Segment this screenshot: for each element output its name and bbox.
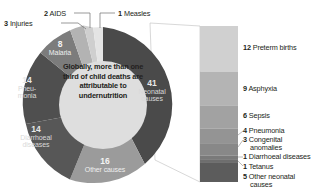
callout-value-measles: 1 [118,9,122,18]
legend-item-tetanus[interactable]: 1 Tetanus [243,163,273,171]
centre-message: Globally, more than one third of child d… [60,62,146,101]
breakdown-legend: 12 Preterm births 9 Asphyxia 6 Sepsis 4 … [243,0,329,193]
infographic-canvas: 41 Neonatal causes 16 Other causes 14 Di… [0,0,329,193]
legend-item-diarrhoeal-diseases[interactable]: 1 Diarrhoeal diseases [243,153,310,161]
legend-value-preterm-births: 12 [243,43,251,52]
legend-label-pneumonia: Pneumonia [249,126,285,135]
legend-value-other-neonatal-causes: 5 [243,172,247,181]
legend-item-asphyxia[interactable]: 9 Asphyxia [243,85,277,93]
neonatal-breakdown-bar [200,26,238,182]
legend-value-pneumonia: 4 [243,126,247,135]
legend-value-tetanus: 1 [243,162,247,171]
legend-label-other-neonatal-causes-2: causes [243,181,295,189]
bar-segment-preterm-births[interactable] [200,26,238,72]
legend-label-preterm-births: Preterm births [253,43,297,52]
callout-value-aids: 2 [44,9,48,18]
leader-line-measles [100,13,115,28]
legend-item-sepsis[interactable]: 6 Sepsis [243,112,270,120]
callout-measles: 1 Measles [118,9,150,18]
callout-label-aids: AIDS [50,9,67,18]
legend-value-asphyxia: 9 [243,84,247,93]
callout-aids: 2 AIDS [44,9,66,18]
bar-segment-diarrhoeal-diseases[interactable] [200,155,238,159]
legend-item-other-neonatal-causes[interactable]: 5 Other neonatal causes [243,173,295,189]
legend-label-asphyxia: Asphyxia [248,84,276,93]
callout-value-injuries: 3 [4,19,8,28]
callout-injuries: 3 Injuries [4,19,33,28]
bar-segment-pneumonia[interactable] [200,129,238,144]
bar-segment-asphyxia[interactable] [200,72,238,106]
legend-item-pneumonia[interactable]: 4 Pneumonia [243,127,284,135]
bar-segment-sepsis[interactable] [200,106,238,129]
legend-item-congenital-anomalies[interactable]: 3 Congenital anomalies [243,136,282,152]
bar-segment-other-neonatal-causes[interactable] [200,163,238,182]
bar-segment-congenital-anomalies[interactable] [200,144,238,155]
legend-value-diarrhoeal-diseases: 1 [243,152,247,161]
donut-chart [23,26,173,184]
legend-value-sepsis: 6 [243,111,247,120]
legend-item-preterm-births[interactable]: 12 Preterm births [243,44,296,52]
callout-label-measles: Measles [124,9,150,18]
bar-segment-tetanus[interactable] [200,159,238,163]
legend-label-sepsis: Sepsis [249,111,270,120]
callout-label-injuries: Injuries [10,19,33,28]
legend-label-diarrhoeal-diseases: Diarrhoeal diseases [249,152,311,161]
legend-label-tetanus: Tetanus [249,162,274,171]
legend-value-congenital-anomalies: 3 [243,135,247,144]
